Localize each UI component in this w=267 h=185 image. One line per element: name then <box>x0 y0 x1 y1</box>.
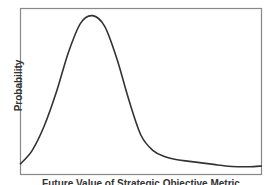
x-axis-label: Future Value of Strategic Objective Metr… <box>20 178 262 185</box>
chart <box>0 0 267 185</box>
y-axis-label: Probability <box>13 46 24 126</box>
